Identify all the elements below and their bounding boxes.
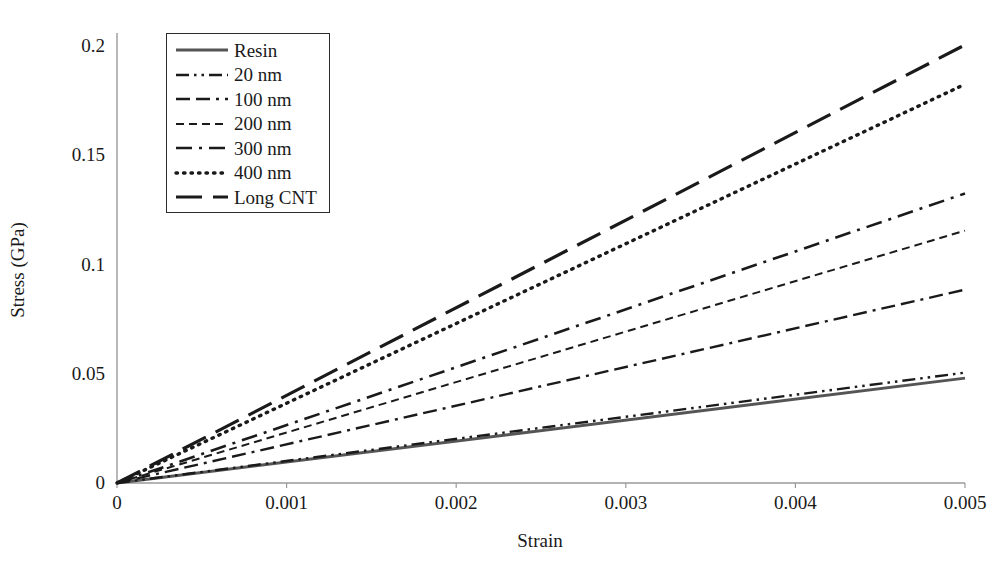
legend-line-swatch (174, 140, 230, 156)
x-tick-label: 0.005 (944, 492, 987, 514)
legend-item-long-cnt[interactable]: Long CNT (174, 185, 323, 210)
series-line-200-nm (117, 231, 965, 483)
legend-item-resin[interactable]: Resin (174, 38, 323, 63)
series-line-300-nm (117, 193, 965, 483)
legend-item-label: 20 nm (230, 65, 282, 84)
x-axis-label: Strain (517, 530, 562, 552)
y-tick-label: 0.05 (55, 363, 105, 385)
y-tick-label: 0.2 (55, 35, 105, 57)
series-line-100-nm (117, 290, 965, 483)
legend-item-label: 400 nm (230, 163, 292, 182)
legend-line-swatch (174, 165, 230, 181)
legend-item-300-nm[interactable]: 300 nm (174, 136, 323, 161)
legend-item-400-nm[interactable]: 400 nm (174, 161, 323, 186)
series-line-resin (117, 378, 965, 483)
x-tick-label: 0.001 (265, 492, 308, 514)
legend-item-label: 300 nm (230, 139, 292, 158)
legend-item-200-nm[interactable]: 200 nm (174, 112, 323, 137)
legend-item-label: 200 nm (230, 114, 292, 133)
x-axis-ticks (117, 483, 965, 488)
x-tick-label: 0.002 (435, 492, 478, 514)
chart-legend: Resin20 nm100 nm200 nm300 nm400 nmLong C… (166, 33, 330, 213)
y-tick-label: 0.1 (55, 254, 105, 276)
x-tick-label: 0 (112, 492, 122, 514)
legend-item-100-nm[interactable]: 100 nm (174, 87, 323, 112)
stress-strain-chart: 0 0.05 0.1 0.15 0.2 0 0.001 0.002 0.003 … (0, 0, 998, 574)
y-tick-label: 0.15 (55, 144, 105, 166)
legend-line-swatch (174, 116, 230, 132)
x-tick-label: 0.004 (774, 492, 817, 514)
legend-line-swatch (174, 42, 230, 58)
y-tick-label: 0 (55, 472, 105, 494)
legend-line-swatch (174, 91, 230, 107)
y-axis-label: Stress (GPa) (7, 222, 29, 318)
legend-line-swatch (174, 67, 230, 83)
legend-item-label: Long CNT (230, 188, 317, 207)
legend-item-label: Resin (230, 41, 277, 60)
x-tick-label: 0.003 (604, 492, 647, 514)
plot-area (0, 0, 998, 574)
legend-item-20-nm[interactable]: 20 nm (174, 63, 323, 88)
legend-line-swatch (174, 189, 230, 205)
legend-item-label: 100 nm (230, 90, 292, 109)
